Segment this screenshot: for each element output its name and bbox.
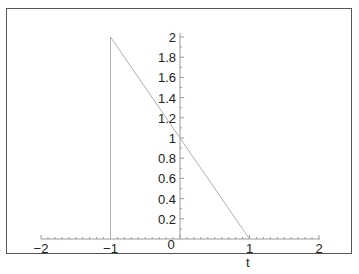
plot-area: −2−11200.20.40.60.811.21.41.61.82 t xyxy=(0,0,359,274)
tick-labels: −2−11200.20.40.60.811.21.41.61.82 xyxy=(34,30,323,256)
y-tick-label: 0.8 xyxy=(158,151,176,166)
y-tick-label: 0.6 xyxy=(158,171,176,186)
origin-label: 0 xyxy=(167,237,174,252)
y-tick-label: 1 xyxy=(169,131,176,146)
y-tick-label: 1.2 xyxy=(158,111,176,126)
y-ticks xyxy=(180,37,184,229)
x-tick-label: 1 xyxy=(246,241,253,256)
x-tick-label: 2 xyxy=(315,241,322,256)
x-tick-label: −1 xyxy=(103,241,118,256)
y-tick-label: 1.4 xyxy=(158,91,176,106)
x-axis-label: t xyxy=(246,255,250,270)
x-tick-label: −2 xyxy=(34,241,49,256)
y-tick-label: 1.6 xyxy=(158,70,176,85)
x-ticks xyxy=(41,235,319,239)
y-tick-label: 0.2 xyxy=(158,212,176,227)
y-tick-label: 0.4 xyxy=(158,192,176,207)
y-tick-label: 2 xyxy=(169,30,176,45)
y-tick-label: 1.8 xyxy=(158,50,176,65)
